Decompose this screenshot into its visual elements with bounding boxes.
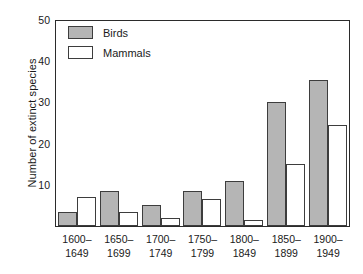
chart-legend: BirdsMammals: [68, 26, 151, 59]
bar-mammals[interactable]: [161, 218, 180, 226]
y-axis-tick-label: 50: [26, 15, 50, 25]
x-axis-tick-label-line: 1649: [56, 246, 98, 260]
bar-birds[interactable]: [100, 191, 119, 226]
bar-birds[interactable]: [225, 181, 244, 226]
legend-label: Mammals: [103, 47, 151, 59]
x-axis-tick-label-line: 1750–: [182, 232, 224, 246]
x-axis-tick-label: 1850–1899: [265, 232, 307, 272]
x-axis-tick-label-line: 1600–: [56, 232, 98, 246]
bar-mammals[interactable]: [77, 197, 96, 226]
x-axis-tick-label-line: 1800–: [223, 232, 265, 246]
bar-group: [309, 20, 347, 226]
bar-mammals[interactable]: [244, 220, 263, 226]
y-axis-tick-label: 40: [26, 56, 50, 66]
legend-item-mammals[interactable]: Mammals: [68, 46, 151, 59]
x-axis-tick-label: 1600–1649: [56, 232, 98, 272]
x-axis-tick-label: 1700–1749: [140, 232, 182, 272]
legend-label: Birds: [103, 27, 128, 39]
y-axis-title: Number of extinct species: [22, 20, 42, 226]
bar-mammals[interactable]: [202, 199, 221, 226]
x-axis-tick-label: 1900–1949: [307, 232, 349, 272]
x-axis-tick-label-line: 1699: [98, 246, 140, 260]
legend-item-birds[interactable]: Birds: [68, 26, 151, 39]
bar-mammals[interactable]: [119, 212, 138, 226]
x-axis-line: [55, 226, 350, 227]
bar-mammals[interactable]: [328, 125, 347, 226]
bar-group: [225, 20, 263, 226]
bar-birds[interactable]: [58, 212, 77, 226]
x-axis-tick-label: 1650–1699: [98, 232, 140, 272]
legend-swatch-mammals: [68, 46, 93, 59]
bar-birds[interactable]: [183, 191, 202, 226]
bar-mammals[interactable]: [286, 164, 305, 226]
bar-group: [267, 20, 305, 226]
bar-birds[interactable]: [142, 205, 161, 226]
x-axis-tick-label-line: 1900–: [307, 232, 349, 246]
y-axis-tick-label: 30: [26, 97, 50, 107]
y-axis-tick-label: 20: [26, 139, 50, 149]
x-axis-tick-label-line: 1700–: [140, 232, 182, 246]
legend-swatch-birds: [68, 26, 93, 39]
x-axis-tick-label-line: 1850–: [265, 232, 307, 246]
x-axis-tick-label-line: 1849: [223, 246, 265, 260]
bar-group: [183, 20, 221, 226]
x-axis-tick-labels: 1600–16491650–16991700–17491750–17991800…: [56, 232, 349, 272]
x-axis-tick-label: 1800–1849: [223, 232, 265, 272]
x-axis-tick-label: 1750–1799: [182, 232, 224, 272]
bar-birds[interactable]: [309, 80, 328, 226]
bar-chart-figure: Number of extinct species 1020304050 160…: [0, 0, 363, 274]
bar-birds[interactable]: [267, 102, 286, 226]
x-axis-tick-label-line: 1650–: [98, 232, 140, 246]
x-axis-tick-label-line: 1799: [182, 246, 224, 260]
x-axis-tick-label-line: 1749: [140, 246, 182, 260]
x-axis-tick-label-line: 1949: [307, 246, 349, 260]
y-axis-tick-label: 10: [26, 180, 50, 190]
x-axis-tick-label-line: 1899: [265, 246, 307, 260]
